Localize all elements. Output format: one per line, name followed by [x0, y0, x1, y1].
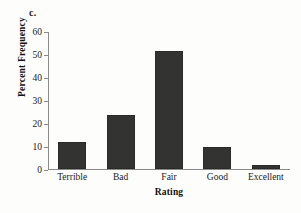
- bar-excellent[interactable]: [252, 165, 280, 169]
- bar-fair[interactable]: [155, 51, 183, 169]
- y-axis-tick-label: 20: [33, 119, 43, 129]
- x-axis-tick-labels: TerribleBadFairGoodExcellent: [48, 172, 290, 182]
- y-axis-tick-label: 60: [33, 27, 43, 37]
- bar-slot: [145, 32, 193, 169]
- x-axis-line: [48, 169, 290, 170]
- y-axis-tick-mark: [44, 170, 48, 171]
- x-axis-tick-label: Excellent: [242, 172, 290, 182]
- bar-bad[interactable]: [107, 115, 135, 169]
- bar-slot: [193, 32, 241, 169]
- figure-panel-c: c. Percent Frequency 0102030405060 Terri…: [0, 0, 301, 213]
- x-axis-tick-label: Good: [193, 172, 241, 182]
- plot-area: 0102030405060: [48, 32, 290, 170]
- x-axis-title: Rating: [48, 187, 290, 197]
- x-axis-tick-label: Terrible: [48, 172, 96, 182]
- bar-slot: [96, 32, 144, 169]
- bar-series: [48, 32, 290, 169]
- bar-terrible[interactable]: [58, 142, 86, 169]
- bar-good[interactable]: [203, 147, 231, 169]
- x-axis-tick-label: Fair: [145, 172, 193, 182]
- y-axis-tick-label: 50: [33, 50, 43, 60]
- y-axis-tick-label: 10: [33, 142, 43, 152]
- y-axis-title: Percent Frequency: [17, 0, 27, 127]
- y-axis-tick-label: 30: [33, 96, 43, 106]
- x-axis-tick-label: Bad: [96, 172, 144, 182]
- panel-label: c.: [29, 7, 36, 18]
- y-axis-tick-label: 0: [37, 165, 42, 175]
- y-axis-tick-label: 40: [33, 73, 43, 83]
- bar-slot: [242, 32, 290, 169]
- bar-slot: [48, 32, 96, 169]
